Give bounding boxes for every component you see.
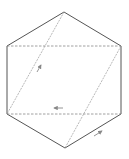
hexagon-solid-edges [7, 12, 121, 148]
diagonal-upper_right-bottom [65, 46, 121, 148]
direction-arrows [37, 65, 102, 136]
diagonal-top-lower_left [7, 12, 64, 114]
arrow-up-right-left-diagonal-icon [37, 65, 41, 72]
edge-top-upper_right [64, 12, 121, 46]
hexagon-diagram [0, 0, 129, 159]
edge-top-upper_left [7, 12, 64, 46]
arrow-up-right-bottom-edge-icon [94, 131, 102, 136]
hexagon-dashed-edges [7, 46, 121, 114]
edge-lower_left-bottom [7, 114, 65, 148]
edge-lower_right-bottom [65, 114, 121, 148]
hexagon-diagonals [7, 12, 121, 148]
